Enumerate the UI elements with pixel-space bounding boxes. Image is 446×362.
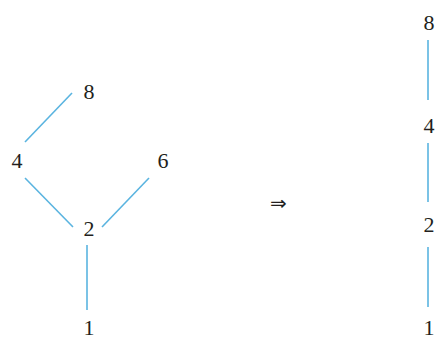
left-node-4: 4: [12, 148, 23, 173]
left-node-8: 8: [84, 79, 95, 104]
left-poset-edges: [25, 93, 149, 310]
left-edge-n4-n8: [25, 93, 72, 142]
implies-arrow-icon: ⇒: [270, 191, 287, 215]
left-node-6: 6: [158, 148, 169, 173]
right-node-4: 4: [424, 113, 435, 138]
left-edge-n2-n6: [102, 178, 149, 227]
left-node-2: 2: [84, 216, 95, 241]
left-poset-nodes: 84621: [12, 79, 169, 340]
left-node-1: 1: [84, 315, 95, 340]
left-edge-n2-n4: [25, 178, 73, 227]
right-node-2: 2: [424, 212, 435, 237]
right-node-8: 8: [424, 10, 435, 35]
right-chain-nodes: 8421: [424, 10, 435, 340]
poset-diagram: 84621 ⇒ 8421: [0, 0, 446, 362]
right-node-1: 1: [424, 315, 435, 340]
